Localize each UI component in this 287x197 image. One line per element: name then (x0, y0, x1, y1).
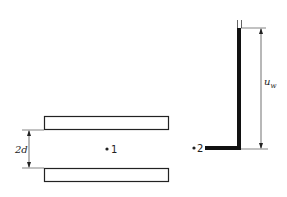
moving-wall (205, 20, 242, 150)
wall-velocity-label: uw (264, 76, 276, 90)
point-2-marker (192, 146, 195, 149)
gap-label: 2d (14, 144, 28, 155)
wall-velocity-dimension (241, 28, 268, 149)
point-1-label: 1 (111, 144, 117, 155)
point-2-label: 2 (197, 143, 203, 154)
upper-plate (45, 117, 169, 130)
point-1-marker (105, 147, 108, 150)
diagram-canvas: 2d 1 2 uw (0, 0, 287, 197)
lower-plate (45, 169, 169, 182)
